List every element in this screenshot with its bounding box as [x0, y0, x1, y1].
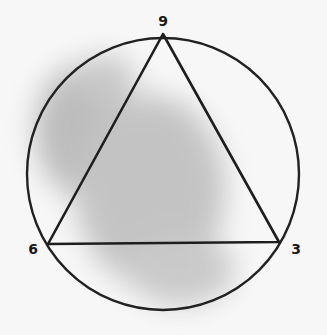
vertex-label-bottom-right: 3	[291, 241, 301, 257]
vertex-label-top: 9	[158, 13, 168, 29]
vertex-label-bottom-left: 6	[28, 241, 38, 257]
circle-triangle-diagram: 9 6 3	[0, 0, 327, 335]
diagram-canvas: 9 6 3	[0, 0, 327, 335]
